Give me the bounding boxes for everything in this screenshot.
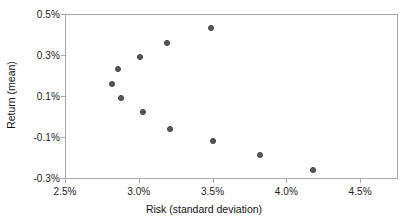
y-axis-tick-mark <box>61 55 65 56</box>
y-axis-tick-label: 0.3% <box>22 50 60 61</box>
data-point <box>257 152 263 158</box>
x-axis-tick-mark <box>286 179 287 183</box>
data-point <box>208 25 214 31</box>
y-axis-tick-mark <box>61 137 65 138</box>
data-point <box>140 109 146 115</box>
x-axis-title: Risk (standard deviation) <box>0 203 408 215</box>
y-axis-tick-label: 0.5% <box>22 9 60 20</box>
data-point <box>164 40 170 46</box>
data-point <box>118 95 124 101</box>
data-point <box>310 167 316 173</box>
x-axis-tick-mark <box>360 179 361 183</box>
data-point <box>210 138 216 144</box>
y-axis-tick-mark <box>61 96 65 97</box>
scatter-chart: 0.5%0.3%0.1%-0.1%-0.3% 2.5%3.0%3.5%4.0%4… <box>0 0 408 223</box>
x-axis-tick-mark <box>213 179 214 183</box>
data-point <box>167 126 173 132</box>
x-axis-tick-mark <box>65 179 66 183</box>
plot-area <box>65 14 398 179</box>
data-point <box>109 81 115 87</box>
y-axis-title: Return (mean) <box>5 35 17 155</box>
data-point <box>115 66 121 72</box>
y-axis-tick-mark <box>61 14 65 15</box>
x-axis-tick-label: 2.5% <box>53 186 76 197</box>
x-axis-tick-label: 3.5% <box>201 186 224 197</box>
y-axis-tick-label: -0.3% <box>22 173 60 184</box>
x-axis-tick-label: 4.5% <box>349 186 372 197</box>
x-axis-tick-label: 3.0% <box>127 186 150 197</box>
y-axis-tick-label: -0.1% <box>22 132 60 143</box>
y-axis-tick-label: 0.1% <box>22 91 60 102</box>
x-axis-tick-mark <box>139 179 140 183</box>
x-axis-tick-label: 4.0% <box>275 186 298 197</box>
data-point <box>137 54 143 60</box>
